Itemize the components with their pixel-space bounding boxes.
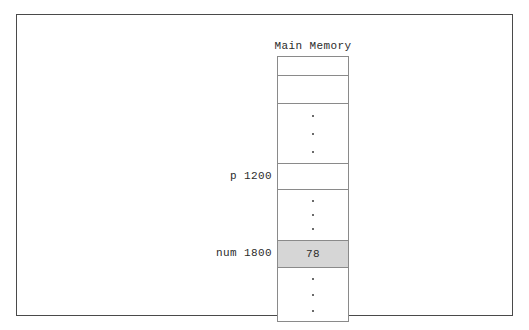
memory-column: 78 [277,56,349,322]
memory-row-label-pointer: p 1200 [152,169,272,183]
vertical-ellipsis-icon [312,268,314,321]
memory-cell-empty-top-1 [278,57,348,76]
memory-row-label-variable: num 1800 [152,246,272,260]
memory-cell-variable: 78 [278,241,348,268]
memory-cell-value: 78 [306,248,320,260]
vertical-ellipsis-icon [312,104,314,163]
memory-column-title: Main Memory [261,39,365,53]
memory-cell-pointer [278,164,348,190]
memory-cell-ellipsis-3 [278,268,348,321]
memory-cell-ellipsis-1 [278,104,348,164]
vertical-ellipsis-icon [312,190,314,240]
memory-cell-empty-top-2 [278,76,348,104]
figure-frame: Main Memory 78 p [16,14,513,316]
memory-cell-ellipsis-2 [278,190,348,241]
